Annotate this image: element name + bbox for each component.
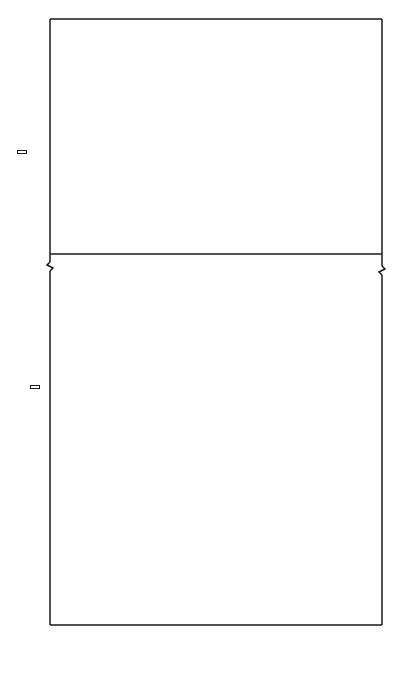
total-cycle-ylabel — [17, 150, 27, 154]
chart-canvas — [0, 0, 405, 679]
axes-frame — [47, 19, 385, 625]
fill-time-ylabel — [30, 385, 40, 389]
